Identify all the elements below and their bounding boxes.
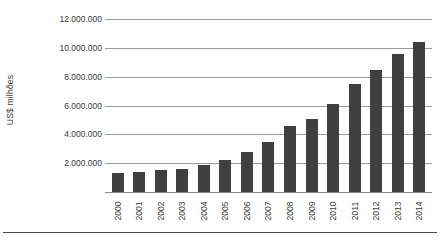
y-axis-tick-label: 2.000.000 — [64, 158, 102, 168]
x-axis-tick-label-2007: 2007 — [263, 202, 273, 221]
x-axis-tick-label-2004: 2004 — [199, 202, 209, 221]
y-axis-tick-label: 8.000.000 — [64, 72, 102, 82]
y-axis-tick-label: 12.000.000 — [59, 14, 102, 24]
bar-2002 — [155, 170, 167, 192]
x-axis-tick-label-2008: 2008 — [285, 202, 295, 221]
x-axis-tick-label-2013: 2013 — [393, 202, 403, 221]
x-label-slot: 2006 — [236, 193, 258, 233]
bar-2008 — [284, 126, 296, 192]
bar-2005 — [219, 160, 231, 192]
x-label-slot: 2001 — [129, 193, 151, 233]
x-axis-tick-label-2014: 2014 — [414, 202, 424, 221]
bar-slot — [193, 19, 215, 192]
bar-2001 — [133, 172, 145, 192]
y-axis-tick-label: 4.000.000 — [64, 129, 102, 139]
x-label-slot: 2000 — [107, 193, 129, 233]
plot-area — [105, 19, 432, 192]
bar-slot — [344, 19, 366, 192]
bar-2014 — [413, 42, 425, 192]
bar-slot — [129, 19, 151, 192]
x-axis-tick-label-2000: 2000 — [113, 202, 123, 221]
bar-2012 — [370, 70, 382, 192]
bar-2004 — [198, 165, 210, 192]
x-label-slot: 2008 — [279, 193, 301, 233]
x-axis-tick-label-2001: 2001 — [134, 202, 144, 221]
x-axis-tick-label-2012: 2012 — [371, 202, 381, 221]
x-label-slot: 2002 — [150, 193, 172, 233]
x-label-slot: 2011 — [344, 193, 366, 233]
bars-series — [105, 19, 432, 192]
y-axis-title-text: US$ milhões — [5, 75, 15, 125]
x-label-slot: 2005 — [215, 193, 237, 233]
y-axis-tick-labels: 12.000.00010.000.0008.000.0006.000.0004.… — [18, 0, 102, 241]
x-label-slot: 2009 — [301, 193, 323, 233]
bar-2007 — [262, 142, 274, 192]
bottom-divider — [3, 232, 437, 233]
bar-slot — [322, 19, 344, 192]
x-label-slot: 2013 — [387, 193, 409, 233]
bar-slot — [150, 19, 172, 192]
x-label-slot: 2004 — [193, 193, 215, 233]
x-label-slot: 2010 — [322, 193, 344, 233]
bar-slot — [279, 19, 301, 192]
bar-slot — [365, 19, 387, 192]
y-axis-tick-label: 6.000.000 — [64, 101, 102, 111]
x-axis-tick-label-2010: 2010 — [328, 202, 338, 221]
bar-chart-figure: US$ milhões 12.000.00010.000.0008.000.00… — [0, 0, 440, 241]
bar-2010 — [327, 104, 339, 192]
bar-2011 — [349, 84, 361, 192]
x-axis-tick-label-2009: 2009 — [307, 202, 317, 221]
x-axis-tick-label-2003: 2003 — [177, 202, 187, 221]
bar-slot — [301, 19, 323, 192]
bar-slot — [258, 19, 280, 192]
bar-slot — [107, 19, 129, 192]
bar-slot — [215, 19, 237, 192]
x-axis-tick-labels: 2000200120022003200420052006200720082009… — [105, 193, 432, 233]
x-label-slot: 2007 — [258, 193, 280, 233]
x-label-slot: 2012 — [365, 193, 387, 233]
y-axis-tick-label: 10.000.000 — [59, 43, 102, 53]
x-label-slot: 2003 — [172, 193, 194, 233]
bar-2003 — [176, 169, 188, 192]
x-axis-tick-label-2005: 2005 — [220, 202, 230, 221]
bar-slot — [236, 19, 258, 192]
x-label-slot: 2014 — [408, 193, 430, 233]
x-axis-tick-label-2006: 2006 — [242, 202, 252, 221]
bar-slot — [408, 19, 430, 192]
bar-2013 — [392, 54, 404, 192]
bar-2000 — [112, 173, 124, 192]
bar-slot — [387, 19, 409, 192]
bar-slot — [172, 19, 194, 192]
bar-2009 — [306, 119, 318, 192]
y-axis-title: US$ milhões — [0, 0, 20, 200]
bar-2006 — [241, 152, 253, 192]
x-axis-tick-label-2002: 2002 — [156, 202, 166, 221]
x-axis-tick-label-2011: 2011 — [350, 202, 360, 220]
